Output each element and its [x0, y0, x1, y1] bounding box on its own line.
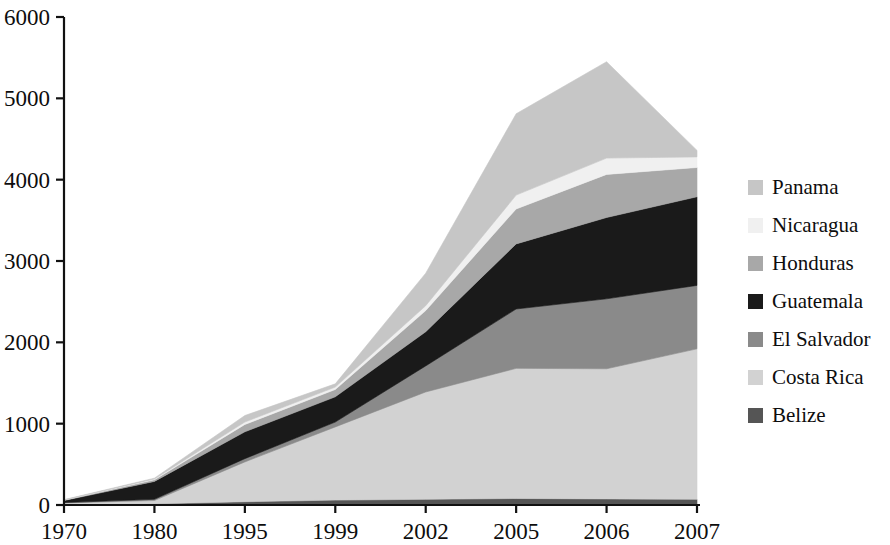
legend-item-belize[interactable]: Belize	[748, 396, 890, 434]
legend-swatch-icon	[748, 332, 763, 347]
legend-item-label: El Salvador	[772, 329, 871, 350]
x-axis-tick-label: 2002	[403, 519, 449, 544]
chart-legend: PanamaNicaraguaHondurasGuatemalaEl Salva…	[748, 168, 890, 434]
x-axis-tick-label: 1999	[312, 519, 358, 544]
x-axis-tick-label: 1995	[222, 519, 268, 544]
x-axis-tick-label: 2007	[674, 519, 720, 544]
legend-item-costa-rica[interactable]: Costa Rica	[748, 358, 890, 396]
y-axis-tick-label: 2000	[4, 330, 50, 355]
legend-swatch-icon	[748, 256, 763, 271]
legend-item-label: Honduras	[772, 253, 854, 274]
y-axis-tick-labels: 0100020003000400050006000	[4, 5, 50, 518]
legend-swatch-icon	[748, 180, 763, 195]
legend-item-panama[interactable]: Panama	[748, 168, 890, 206]
legend-item-label: Costa Rica	[772, 367, 864, 388]
x-axis-tick-label: 1970	[41, 519, 87, 544]
x-axis-tick-label: 2005	[493, 519, 539, 544]
legend-item-label: Belize	[772, 405, 826, 426]
legend-item-honduras[interactable]: Honduras	[748, 244, 890, 282]
legend-item-label: Nicaragua	[772, 215, 858, 236]
legend-item-el-salvador[interactable]: El Salvador	[748, 320, 890, 358]
area-series-group	[64, 62, 697, 505]
x-axis-tick-label: 2006	[584, 519, 630, 544]
stacked-area-chart: 0100020003000400050006000 19701980199519…	[0, 0, 890, 545]
legend-item-nicaragua[interactable]: Nicaragua	[748, 206, 890, 244]
y-axis-tick-label: 3000	[4, 249, 50, 274]
legend-swatch-icon	[748, 218, 763, 233]
legend-swatch-icon	[748, 370, 763, 385]
y-axis-tick-label: 5000	[4, 86, 50, 111]
legend-swatch-icon	[748, 408, 763, 423]
legend-item-guatemala[interactable]: Guatemala	[748, 282, 890, 320]
legend-item-label: Guatemala	[772, 291, 863, 312]
y-axis-tick-label: 6000	[4, 5, 50, 30]
x-axis-tick-label: 1980	[131, 519, 177, 544]
x-axis-tick-labels: 19701980199519992002200520062007	[41, 519, 720, 544]
legend-item-label: Panama	[772, 177, 838, 198]
y-axis-tick-label: 4000	[4, 168, 50, 193]
y-axis-tick-label: 1000	[4, 412, 50, 437]
legend-swatch-icon	[748, 294, 763, 309]
y-axis-tick-label: 0	[39, 493, 51, 518]
